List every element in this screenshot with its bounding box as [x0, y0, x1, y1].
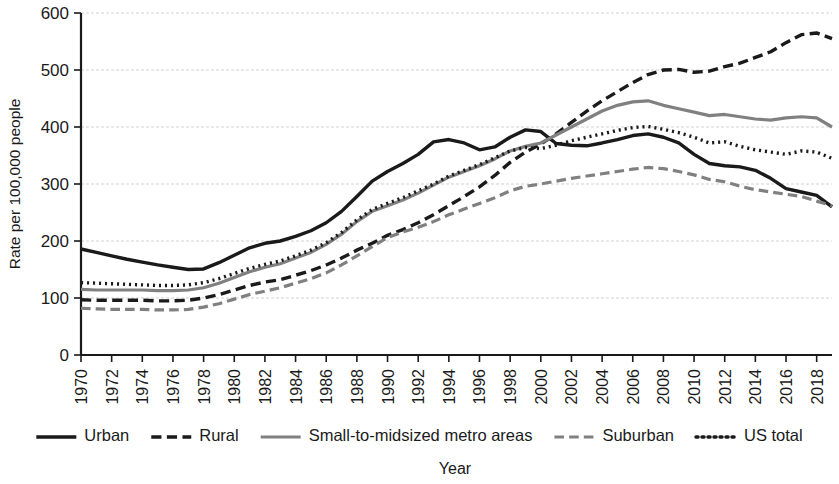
line-chart: 0100200300400500600 19701972197419761978…	[0, 0, 839, 484]
x-tick-label-1974: 1974	[134, 369, 151, 405]
series-line-us-total	[81, 126, 832, 285]
x-tick-label-1982: 1982	[257, 369, 274, 405]
x-tick-label-1994: 1994	[441, 369, 458, 405]
y-tick-label-0: 0	[60, 346, 69, 365]
x-tick-label-2016: 2016	[778, 369, 795, 405]
legend-item-small-to-midsized-metro-areas[interactable]: Small-to-midsized metro areas	[261, 426, 533, 444]
legend-label-suburban: Suburban	[602, 426, 674, 444]
legend-label-us-total: US total	[744, 426, 803, 444]
y-tick-label-600: 600	[41, 4, 69, 23]
x-tick-label-2018: 2018	[809, 369, 826, 405]
x-tick-label-2014: 2014	[747, 369, 764, 405]
x-tick-label-1996: 1996	[471, 369, 488, 405]
legend-label-rural: Rural	[199, 426, 238, 444]
x-tick-label-1990: 1990	[380, 369, 397, 405]
x-tick-label-2008: 2008	[655, 369, 672, 405]
series-line-small-to-midsized-metro-areas	[81, 101, 832, 291]
x-tick-label-1970: 1970	[73, 369, 90, 405]
x-tick-label-1972: 1972	[104, 369, 121, 405]
x-tick-label-2006: 2006	[625, 369, 642, 405]
x-tick-label-1980: 1980	[226, 369, 243, 405]
x-tick-label-2004: 2004	[594, 369, 611, 405]
data-series	[81, 33, 832, 310]
legend-item-urban[interactable]: Urban	[36, 426, 129, 444]
legend-label-urban: Urban	[84, 426, 129, 444]
legend-item-us-total[interactable]: US total	[696, 426, 803, 444]
x-tick-label-1984: 1984	[288, 369, 305, 405]
gridlines	[81, 13, 832, 298]
y-tick-label-200: 200	[41, 232, 69, 251]
x-tick-label-1976: 1976	[165, 369, 182, 405]
y-tick-label-400: 400	[41, 118, 69, 137]
x-tick-label-1998: 1998	[502, 369, 519, 405]
x-tick-label-2010: 2010	[686, 369, 703, 405]
x-tick-label-1988: 1988	[349, 369, 366, 405]
x-axis-ticks: 1970197219741976197819801982198419861988…	[73, 355, 826, 405]
x-tick-label-1986: 1986	[318, 369, 335, 405]
series-line-rural	[81, 33, 832, 301]
legend-item-suburban[interactable]: Suburban	[554, 426, 674, 444]
x-tick-label-2012: 2012	[717, 369, 734, 405]
x-axis-title: Year	[439, 460, 472, 477]
legend-label-small-to-midsized-metro-areas: Small-to-midsized metro areas	[309, 426, 533, 444]
x-tick-label-1992: 1992	[410, 369, 427, 405]
chart-legend: UrbanRuralSmall-to-midsized metro areasS…	[36, 426, 802, 444]
y-tick-label-100: 100	[41, 289, 69, 308]
y-tick-label-300: 300	[41, 175, 69, 194]
y-axis-label: Rate per 100,000 people	[6, 99, 23, 270]
x-axis-label: Year	[439, 460, 472, 477]
chart-canvas: 0100200300400500600 19701972197419761978…	[0, 0, 839, 484]
x-tick-label-2002: 2002	[563, 369, 580, 405]
y-tick-label-500: 500	[41, 61, 69, 80]
y-axis-title: Rate per 100,000 people	[6, 99, 23, 270]
legend-item-rural[interactable]: Rural	[151, 426, 238, 444]
y-axis-ticks: 0100200300400500600	[41, 4, 81, 365]
x-tick-label-2000: 2000	[533, 369, 550, 405]
x-tick-label-1978: 1978	[196, 369, 213, 405]
